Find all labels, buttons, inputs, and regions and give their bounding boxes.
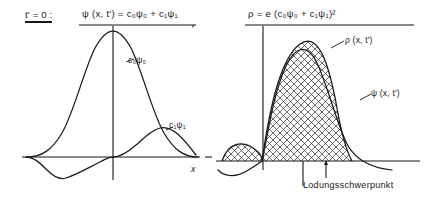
curve-label-c1-psi1: c₁ψ₁ — [169, 120, 186, 130]
density-side-hatch — [218, 132, 268, 164]
curve-label-c0-psi0: c₀ψ₀ — [128, 55, 146, 65]
right-panel-formula: ρ = e (c₀ψ₀ + c₁ψ₁)² — [248, 8, 336, 19]
left-panel-formula: ψ (x, t') = c₀ψ₀ + c₁ψ₁ — [82, 8, 178, 19]
centroid-caption: Lodungsschwerpunkt — [303, 180, 393, 190]
wavefunction-density-figure — [0, 0, 429, 206]
time-condition-label: t' = 0 : — [25, 9, 52, 23]
density-main-hatch — [255, 35, 360, 165]
leader-psi-right — [360, 94, 371, 100]
curve-c0-psi0 — [26, 31, 198, 157]
curve-c1-psi1 — [26, 128, 196, 179]
leader-rho — [331, 41, 344, 48]
left-panel — [22, 25, 212, 180]
right-panel — [216, 25, 420, 186]
x-axis-label: x — [191, 164, 195, 174]
curve-label-rho: ρ (x, t') — [345, 35, 373, 45]
curve-label-psi: ψ (x, t') — [371, 88, 400, 98]
